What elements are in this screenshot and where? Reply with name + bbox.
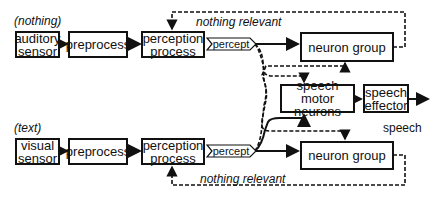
auditory-preprocess-box: preprocess — [68, 31, 128, 58]
top-neuron-group-box: neuron group — [300, 32, 394, 62]
auditory-sensor-box: auditory sensor — [15, 31, 60, 58]
auditory-input-label: (nothing) — [14, 14, 61, 28]
visual-perception-box: perception process — [141, 138, 205, 165]
visual-perception-label: perception process — [143, 139, 204, 165]
visual-sensor-label: visual sensor — [17, 139, 58, 165]
speech-output-label: speech — [383, 121, 422, 135]
speech-motor-neurons-label: speech motor neurons — [282, 79, 353, 118]
top-neuron-group-label: neuron group — [308, 41, 385, 54]
auditory-sensor-label: auditory sensor — [14, 32, 60, 58]
visual-input-label: (text) — [14, 121, 41, 135]
auditory-preprocess-label: preprocess — [66, 38, 130, 51]
speech-effector-box: speech effector — [363, 84, 409, 113]
speech-effector-label: speech effector — [364, 86, 407, 112]
visual-preprocess-label: preprocess — [66, 145, 130, 158]
bottom-neuron-group-label: neuron group — [308, 149, 385, 162]
visual-sensor-box: visual sensor — [15, 138, 60, 165]
speech-motor-neurons-box: speech motor neurons — [280, 84, 355, 113]
auditory-perception-label: perception process — [143, 32, 204, 58]
top-feedback-label: nothing relevant — [196, 15, 281, 29]
auditory-perception-box: perception process — [141, 31, 205, 58]
visual-preprocess-box: preprocess — [68, 138, 128, 165]
auditory-percept-tag: percept — [212, 37, 250, 51]
visual-percept-tag: percept — [212, 144, 250, 158]
bottom-feedback-label: nothing relevant — [200, 172, 285, 186]
bottom-neuron-group-box: neuron group — [300, 141, 394, 170]
